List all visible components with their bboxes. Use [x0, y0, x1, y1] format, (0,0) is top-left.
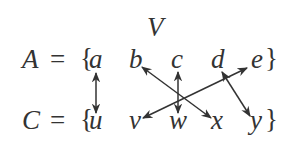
mapping-arrows	[0, 0, 284, 143]
arrow-e-v	[143, 68, 247, 118]
arrow-b-x	[142, 67, 211, 118]
arrow-d-y	[222, 72, 250, 116]
